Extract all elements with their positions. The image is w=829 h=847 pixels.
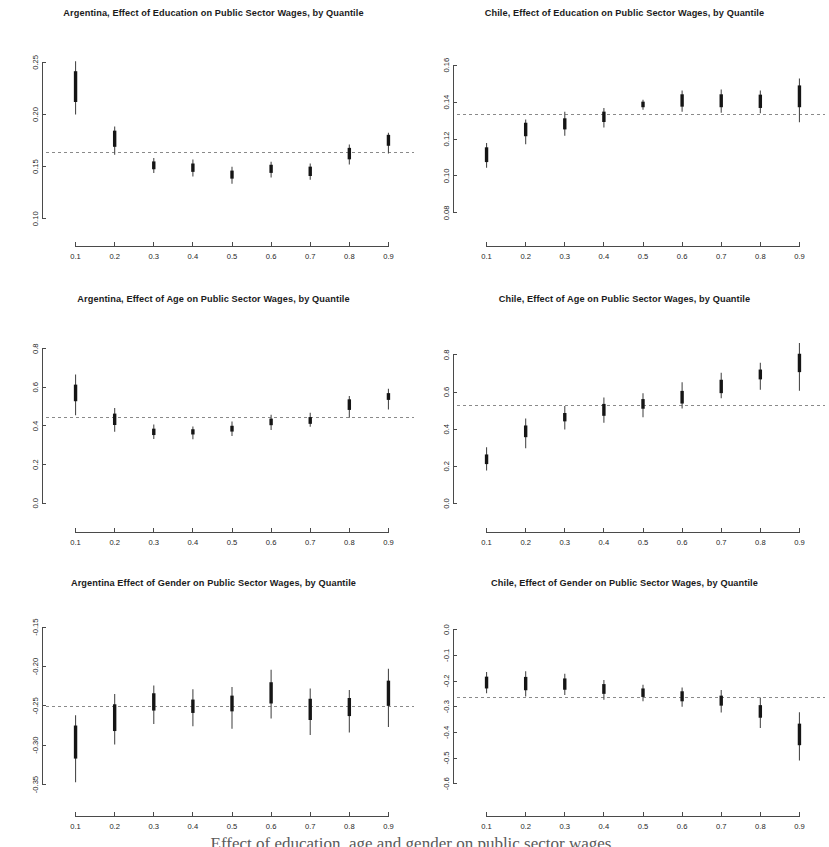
x-tick-label-chile-age: 0.4 (599, 538, 610, 547)
chart-title-chile-gender: Chile, Effect of Gender on Public Sector… (419, 578, 829, 588)
y-axis-line-argentina-education (42, 62, 46, 218)
y-tick-label-chile-gender: -0.6 (442, 777, 451, 790)
x-tick-label-chile-education: 0.3 (559, 252, 570, 261)
x-tick-label-chile-gender: 0.7 (716, 822, 727, 831)
y-tick-label-chile-education: 0.12 (442, 132, 451, 147)
x-tick-label-argentina-education: 0.1 (70, 252, 81, 261)
x-tick-label-chile-gender: 0.3 (559, 822, 570, 831)
x-tick-label-argentina-education: 0.4 (188, 252, 199, 261)
x-tick-label-argentina-gender: 0.6 (266, 822, 277, 831)
x-tick-label-argentina-age: 0.9 (383, 538, 394, 547)
x-tick-label-argentina-gender: 0.3 (148, 822, 159, 831)
x-tick-label-chile-gender: 0.8 (755, 822, 766, 831)
x-tick-label-chile-education: 0.8 (755, 252, 766, 261)
y-tick-label-chile-gender: -0.3 (442, 700, 451, 713)
x-tick-label-argentina-gender: 0.2 (109, 822, 120, 831)
chart-title-argentina-gender: Argentina Effect of Gender on Public Sec… (8, 578, 419, 588)
y-tick-label-argentina-gender: -0.35 (31, 776, 40, 793)
x-tick-label-chile-education: 0.6 (677, 252, 688, 261)
x-tick-label-argentina-education: 0.6 (266, 252, 277, 261)
y-tick-label-chile-gender: -0.4 (442, 726, 451, 739)
y-tick-label-argentina-education: 0.15 (31, 159, 40, 174)
x-tick-label-argentina-education: 0.5 (227, 252, 238, 261)
x-tick-label-chile-age: 0.8 (755, 538, 766, 547)
x-tick-label-chile-age: 0.6 (677, 538, 688, 547)
y-tick-label-chile-education: 0.16 (442, 58, 451, 73)
chart-title-chile-education: Chile, Effect of Education on Public Sec… (419, 8, 829, 18)
plot-area-chile-gender: -0.6-0.5-0.4-0.3-0.2-0.10.00.10.20.30.40… (419, 602, 829, 832)
x-tick-label-argentina-education: 0.8 (344, 252, 355, 261)
y-tick-label-argentina-gender: -0.20 (31, 658, 40, 675)
x-tick-label-chile-age: 0.3 (559, 538, 570, 547)
x-tick-label-argentina-gender: 0.7 (305, 822, 316, 831)
x-tick-label-argentina-gender: 0.9 (383, 822, 394, 831)
x-tick-label-chile-education: 0.2 (520, 252, 531, 261)
y-tick-label-chile-age: 0.2 (442, 461, 451, 472)
x-tick-label-chile-age: 0.1 (481, 538, 492, 547)
y-tick-label-chile-gender: -0.5 (442, 752, 451, 765)
x-tick-label-chile-age: 0.7 (716, 538, 727, 547)
x-tick-label-argentina-age: 0.4 (188, 538, 199, 547)
x-tick-label-argentina-education: 0.2 (109, 252, 120, 261)
plot-area-chile-age: 0.00.20.40.60.80.10.20.30.40.50.60.70.80… (419, 318, 829, 548)
x-tick-label-chile-education: 0.7 (716, 252, 727, 261)
x-tick-label-argentina-gender: 0.8 (344, 822, 355, 831)
x-tick-label-argentina-gender: 0.4 (188, 822, 199, 831)
x-tick-label-argentina-age: 0.3 (148, 538, 159, 547)
x-tick-label-chile-age: 0.2 (520, 538, 531, 547)
x-tick-label-chile-gender: 0.2 (520, 822, 531, 831)
y-tick-label-argentina-age: 0.6 (31, 382, 40, 393)
figure-caption: Effect of education, age and gender on p… (0, 834, 822, 847)
y-tick-label-chile-gender: -0.1 (442, 649, 451, 662)
x-tick-label-argentina-gender: 0.1 (70, 822, 81, 831)
plot-area-argentina-age: 0.00.20.40.60.80.10.20.30.40.50.60.70.80… (8, 318, 419, 548)
y-tick-label-argentina-gender: -0.15 (31, 618, 40, 635)
y-tick-label-chile-education: 0.10 (442, 169, 451, 184)
y-tick-label-argentina-education: 0.10 (31, 211, 40, 226)
x-tick-label-chile-education: 0.9 (794, 252, 805, 261)
x-tick-label-argentina-age: 0.8 (344, 538, 355, 547)
chart-title-argentina-age: Argentina, Effect of Age on Public Secto… (8, 294, 419, 304)
x-tick-label-chile-gender: 0.9 (794, 822, 805, 831)
x-tick-label-chile-gender: 0.4 (599, 822, 610, 831)
y-tick-label-chile-gender: 0.0 (442, 624, 451, 635)
x-tick-label-chile-gender: 0.5 (638, 822, 649, 831)
y-tick-label-argentina-age: 0.4 (31, 421, 40, 432)
plot-area-argentina-gender: -0.35-0.30-0.25-0.20-0.150.10.20.30.40.5… (8, 602, 419, 832)
y-tick-label-argentina-age: 0.2 (31, 459, 40, 470)
x-tick-label-argentina-education: 0.7 (305, 252, 316, 261)
chart-title-chile-age: Chile, Effect of Age on Public Sector Wa… (419, 294, 829, 304)
x-tick-label-argentina-age: 0.7 (305, 538, 316, 547)
x-tick-label-chile-gender: 0.1 (481, 822, 492, 831)
y-tick-label-argentina-age: 0.0 (31, 498, 40, 509)
y-tick-label-chile-education: 0.08 (442, 206, 451, 221)
y-tick-label-argentina-gender: -0.25 (31, 697, 40, 714)
x-tick-label-chile-age: 0.9 (794, 538, 805, 547)
x-tick-label-chile-education: 0.4 (599, 252, 610, 261)
x-tick-label-argentina-education: 0.9 (383, 252, 394, 261)
x-tick-label-argentina-age: 0.5 (227, 538, 238, 547)
y-tick-label-chile-age: 0.4 (442, 424, 451, 435)
x-tick-label-chile-age: 0.5 (638, 538, 649, 547)
y-tick-label-argentina-education: 0.20 (31, 107, 40, 122)
y-tick-label-chile-education: 0.14 (442, 95, 451, 110)
plot-area-argentina-education: 0.100.150.200.250.10.20.30.40.50.60.70.8… (8, 32, 419, 262)
x-tick-label-argentina-education: 0.3 (148, 252, 159, 261)
y-tick-label-argentina-gender: -0.30 (31, 737, 40, 754)
y-tick-label-argentina-education: 0.25 (31, 55, 40, 70)
plot-area-chile-education: 0.080.100.120.140.160.10.20.30.40.50.60.… (419, 32, 829, 262)
x-tick-label-chile-gender: 0.6 (677, 822, 688, 831)
y-tick-label-chile-age: 0.6 (442, 387, 451, 398)
y-tick-label-chile-age: 0.8 (442, 350, 451, 361)
y-tick-label-chile-gender: -0.2 (442, 674, 451, 687)
chart-title-argentina-education: Argentina, Effect of Education on Public… (8, 8, 419, 18)
x-tick-label-argentina-age: 0.1 (70, 538, 81, 547)
x-tick-label-argentina-gender: 0.5 (227, 822, 238, 831)
x-tick-label-chile-education: 0.5 (638, 252, 649, 261)
x-tick-label-chile-education: 0.1 (481, 252, 492, 261)
x-tick-label-argentina-age: 0.6 (266, 538, 277, 547)
y-tick-label-argentina-age: 0.8 (31, 343, 40, 354)
x-tick-label-argentina-age: 0.2 (109, 538, 120, 547)
y-tick-label-chile-age: 0.0 (442, 498, 451, 509)
